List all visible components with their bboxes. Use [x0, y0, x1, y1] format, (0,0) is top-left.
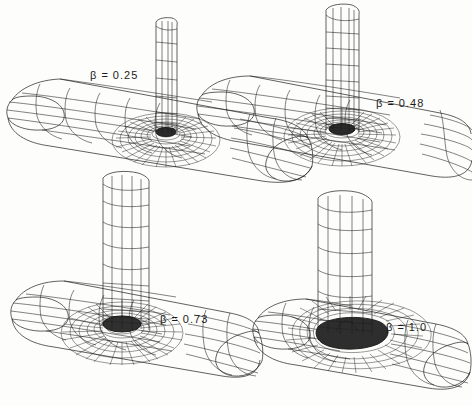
beta-label-073: β = 0.73 [160, 313, 208, 325]
intersection-saddle-p4 [286, 296, 431, 373]
brace-tube-p2 [326, 4, 359, 132]
mesh-canvas [0, 0, 472, 405]
intersection-fan-p2 [284, 108, 400, 166]
panel-beta-048 [197, 4, 472, 180]
panel-beta-073 [11, 171, 263, 377]
beta-label-025: β = 0.25 [90, 69, 138, 81]
panel-beta-025 [7, 18, 313, 183]
panel-beta-10 [253, 191, 471, 390]
tubular-joint-mesh-figure: β = 0.25 β = 0.48 β = 0.73 β = 1.0 [0, 0, 472, 405]
beta-label-10: β = 1.0 [386, 321, 427, 333]
beta-label-048: β = 0.48 [376, 97, 424, 109]
